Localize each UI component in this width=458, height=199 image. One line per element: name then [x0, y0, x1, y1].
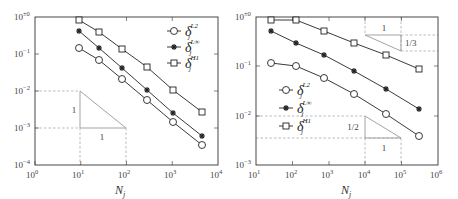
svg-text:δH1j: δH1j [297, 117, 311, 136]
right-slope-triangle-bottom: 1/2 1 [347, 116, 401, 153]
svg-text:105: 105 [394, 168, 406, 180]
left-x-tick-labels: 100 101 102 103 104 [26, 168, 223, 180]
svg-text:10±0: 10±0 [14, 10, 30, 22]
right-series-linf [268, 28, 422, 112]
right-bottom-triangle-vertical-label: 1/2 [347, 122, 359, 132]
legend-item-h1: δH1j [279, 117, 311, 136]
svg-text:10−4: 10−4 [14, 158, 31, 170]
svg-text:10−1: 10−1 [14, 47, 30, 59]
svg-text:102: 102 [285, 168, 297, 180]
svg-text:δL2j: δL2j [297, 81, 310, 100]
right-y-tick-labels: 10±0 10−1 10−2 10−3 [235, 10, 251, 170]
left-legend: δL2j δL∞j δH1j [167, 22, 199, 73]
right-slope-triangle-top: 1 1/3 [365, 23, 417, 51]
left-triangle-vertical-label: 1 [72, 105, 77, 115]
right-series-l2 [268, 60, 423, 140]
left-chart: 1 1 100 101 102 103 [14, 10, 223, 199]
right-top-triangle-vertical-label: 1/3 [405, 38, 417, 48]
left-triangle-horizontal-label: 1 [100, 132, 105, 142]
svg-text:103: 103 [164, 168, 176, 180]
svg-text:10−2: 10−2 [14, 84, 30, 96]
svg-text:δH1j: δH1j [185, 54, 199, 73]
right-series-h1 [268, 17, 422, 72]
svg-text:10−3: 10−3 [14, 121, 30, 133]
svg-text:10−1: 10−1 [235, 59, 251, 71]
svg-text:100: 100 [26, 168, 38, 180]
svg-text:102: 102 [118, 168, 130, 180]
svg-text:10−2: 10−2 [235, 109, 251, 121]
left-y-tick-labels: 10±0 10−1 10−2 10−3 10−4 [14, 10, 31, 170]
right-top-triangle-horizontal-label: 1 [382, 23, 387, 33]
legend-item-linf: δL∞j [279, 99, 311, 118]
right-slope-guides-bottom [256, 116, 401, 165]
legend-item-l2: δL2j [279, 81, 310, 100]
left-x-ticks [35, 17, 172, 165]
svg-text:104: 104 [358, 168, 371, 180]
left-x-axis-label: Nj [114, 183, 126, 199]
svg-text:101: 101 [72, 168, 84, 180]
right-x-axis-label: Nj [340, 183, 352, 199]
right-legend: δL2j δL∞j δH1j [279, 81, 311, 136]
svg-text:10±0: 10±0 [235, 10, 251, 22]
svg-text:10−3: 10−3 [235, 158, 251, 170]
right-chart: 1/2 1 1 1/3 [235, 10, 443, 199]
legend-item-h1: δH1j [167, 54, 199, 73]
svg-text:106: 106 [430, 168, 443, 180]
figure: 1 1 100 101 102 103 [0, 0, 458, 199]
svg-text:δL∞j: δL∞j [297, 99, 311, 118]
svg-text:103: 103 [321, 168, 333, 180]
right-slope-guides-top [365, 17, 438, 51]
svg-text:101: 101 [248, 168, 260, 180]
right-bottom-triangle-horizontal-label: 1 [382, 143, 387, 153]
right-x-tick-labels: 101 102 103 104 105 106 [248, 168, 443, 180]
svg-text:104: 104 [210, 168, 223, 180]
